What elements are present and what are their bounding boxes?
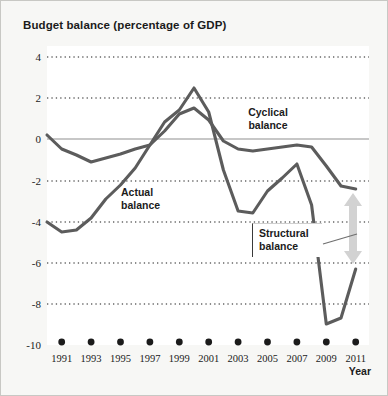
cyclical-balance-label-line1: Cyclical bbox=[248, 106, 288, 118]
x-tick-label: 2007 bbox=[286, 353, 307, 364]
chart-figure: Budget balance (percentage of GDP) 4 2 0… bbox=[0, 0, 388, 396]
y-tick-label: -6 bbox=[32, 257, 42, 269]
y-tick-label: -4 bbox=[32, 216, 42, 228]
x-axis-marker-dot bbox=[88, 339, 95, 346]
x-tick-label: 2005 bbox=[257, 353, 278, 364]
x-tick-label: 1999 bbox=[169, 353, 190, 364]
y-tick-label: 0 bbox=[36, 133, 42, 145]
x-axis-marker-dot bbox=[323, 339, 330, 346]
plot-background bbox=[47, 46, 369, 345]
x-tick-label: 1991 bbox=[51, 353, 72, 364]
x-axis-marker-dot bbox=[147, 339, 154, 346]
y-axis-tick-labels: 4 2 0 -2 -4 -6 -8 -10 bbox=[26, 51, 41, 351]
x-axis-marker-dot bbox=[205, 339, 212, 346]
x-axis-title: Year bbox=[349, 365, 371, 377]
cyclical-balance-label-line2: balance bbox=[248, 119, 287, 131]
y-tick-label: 4 bbox=[36, 51, 42, 63]
x-axis-marker-dot bbox=[294, 339, 301, 346]
y-tick-label: -10 bbox=[26, 339, 41, 351]
x-axis-marker-dot bbox=[352, 339, 359, 346]
x-tick-label: 1993 bbox=[81, 353, 102, 364]
x-axis-marker-dot bbox=[176, 339, 183, 346]
actual-balance-label-line1: Actual bbox=[121, 186, 153, 198]
x-axis-tick-labels: 1991 1993 1995 1997 1999 2001 2003 2005 … bbox=[51, 353, 366, 364]
structural-balance-label-line1: Structural bbox=[259, 227, 317, 240]
x-axis-marker-dot bbox=[235, 339, 242, 346]
x-tick-label: 2009 bbox=[316, 353, 337, 364]
x-axis-marker-dot bbox=[264, 339, 271, 346]
x-tick-label: 1995 bbox=[110, 353, 131, 364]
x-axis-marker-dot bbox=[58, 339, 65, 346]
chart-plot-area: 4 2 0 -2 -4 -6 -8 -10 bbox=[1, 1, 388, 396]
structural-balance-label-line2: balance bbox=[259, 240, 317, 253]
actual-balance-label-line2: balance bbox=[121, 199, 160, 211]
x-tick-label: 2003 bbox=[228, 353, 249, 364]
annotation-structural-balance: Structural balance bbox=[252, 223, 322, 257]
x-tick-label: 1997 bbox=[139, 353, 160, 364]
y-tick-label: -2 bbox=[32, 175, 41, 187]
annotation-cyclical-balance: Cyclical balance bbox=[248, 106, 288, 131]
y-tick-label: -8 bbox=[32, 298, 42, 310]
x-tick-label: 2011 bbox=[345, 353, 366, 364]
x-tick-label: 2001 bbox=[198, 353, 219, 364]
x-axis-marker-dot bbox=[117, 339, 124, 346]
y-tick-label: 2 bbox=[36, 92, 42, 104]
